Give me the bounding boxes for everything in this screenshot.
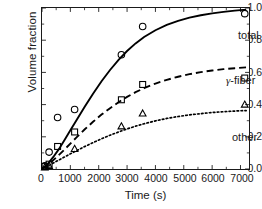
- series-label-gamma-fiber: γ-fiber: [226, 74, 255, 86]
- plot-area: total γ-fiber other: [41, 7, 250, 170]
- y-axis-title: Volume fraction: [26, 0, 38, 112]
- series-label-total: total: [238, 29, 259, 41]
- fit-curves: [42, 10, 246, 169]
- data-markers: [41, 10, 248, 170]
- x-tick-label-7: 7000: [222, 172, 262, 184]
- plot-canvas: [42, 8, 249, 169]
- x-axis-title: Time (s): [41, 189, 250, 201]
- series-label-other: other: [232, 131, 257, 143]
- chart-figure: Volume fraction 1.0 0.8 0.6 0.4 0.2 0.0 …: [0, 0, 262, 209]
